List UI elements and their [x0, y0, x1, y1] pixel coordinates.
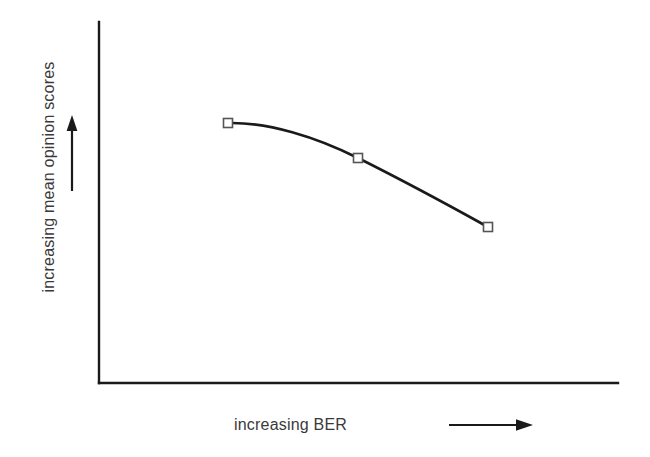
x-axis-label-text: increasing BER [234, 416, 347, 434]
data-point-marker [484, 223, 493, 232]
plot-canvas [0, 0, 650, 457]
data-series-group [224, 119, 493, 232]
x-axis-arrow-spacer [373, 425, 483, 426]
data-point-marker [354, 154, 363, 163]
axes-group [99, 22, 618, 383]
chart-figure: increasing mean opinion scores increasin… [0, 0, 650, 457]
y-axis-label-text: increasing mean opinion scores [40, 32, 58, 322]
series-curve [228, 123, 488, 227]
y-axis-label: increasing mean opinion scores [0, 0, 95, 383]
x-axis-label: increasing BER [99, 408, 618, 442]
data-point-marker [224, 119, 233, 128]
